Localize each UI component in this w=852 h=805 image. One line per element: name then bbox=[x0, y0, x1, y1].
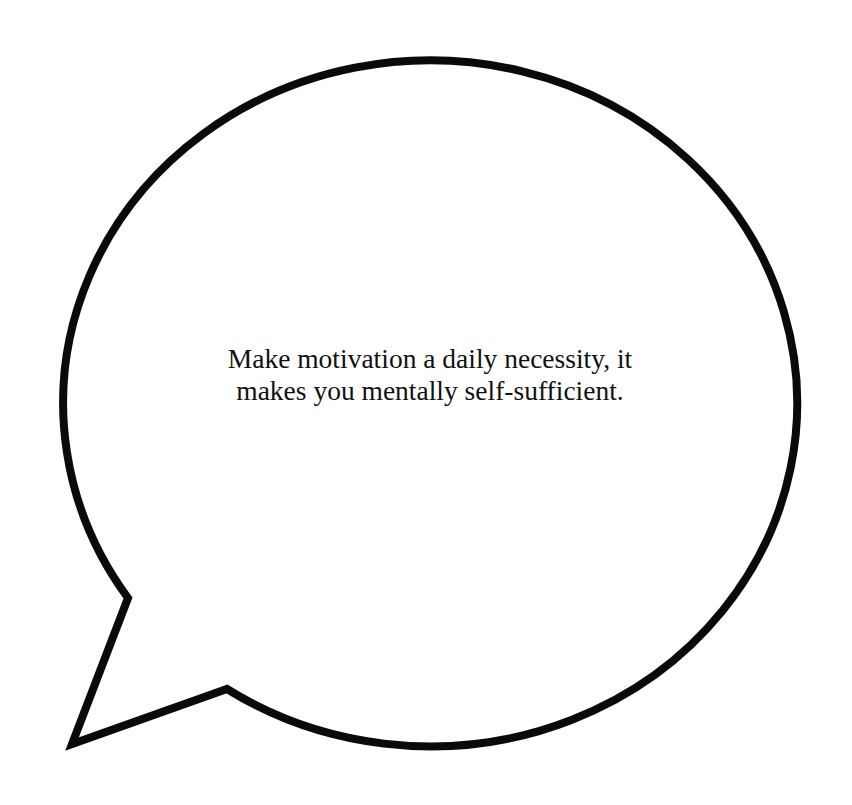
quote-text: Make motivation a daily necessity, it ma… bbox=[130, 343, 730, 407]
quote-line-1: Make motivation a daily necessity, it bbox=[130, 343, 730, 375]
quote-line-2: makes you mentally self-sufficient. bbox=[130, 375, 730, 407]
